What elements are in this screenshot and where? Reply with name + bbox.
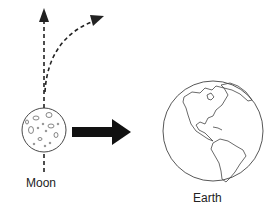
curved-path-arrow xyxy=(45,15,104,92)
gravity-force-arrow xyxy=(72,119,131,145)
moon xyxy=(22,108,66,152)
earth-label: Earth xyxy=(193,191,222,205)
moon-label: Moon xyxy=(26,176,56,190)
earth xyxy=(163,81,263,182)
